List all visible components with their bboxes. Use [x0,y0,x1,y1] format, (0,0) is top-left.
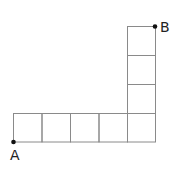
grid-path-diagram [0,0,178,176]
point-a-label: A [10,148,20,162]
point-b-dot [153,24,158,29]
point-b-label: B [160,20,170,34]
point-a-dot [11,140,16,145]
